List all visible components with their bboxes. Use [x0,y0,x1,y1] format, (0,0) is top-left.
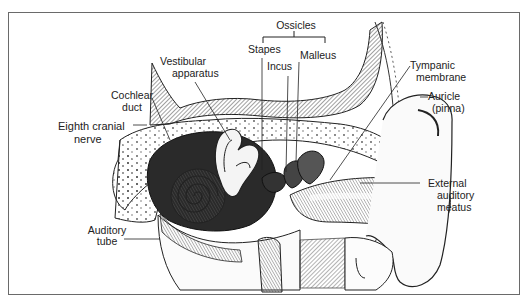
label-eighth-nerve-line1: Eighth cranial [58,121,125,132]
label-external-line3: meatus [437,202,471,213]
label-auricle-line2: (pinna) [432,103,465,114]
label-eighth-nerve-line2: nerve [74,134,102,145]
label-auditory-tube-line2: tube [92,236,122,247]
label-stapes: Stapes [248,44,281,55]
label-auricle-line1: Auricle [428,91,460,102]
ossicles-bracket [263,31,325,43]
label-ossicles: Ossicles [274,20,318,31]
label-cochlear-line2: duct [108,102,156,113]
label-incus: Incus [267,61,292,72]
label-tympanic-line2: membrane [416,72,466,83]
label-cochlear-line1: Cochlear [108,90,156,101]
label-vestibular-line1: Vestibular [160,56,206,67]
label-tympanic-line1: Tympanic [410,60,455,71]
cochlea [171,169,225,223]
label-external-line2: auditory [437,190,474,201]
label-vestibular-line2: apparatus [172,68,219,79]
label-malleus: Malleus [300,50,336,61]
label-external-line1: External [428,178,467,189]
